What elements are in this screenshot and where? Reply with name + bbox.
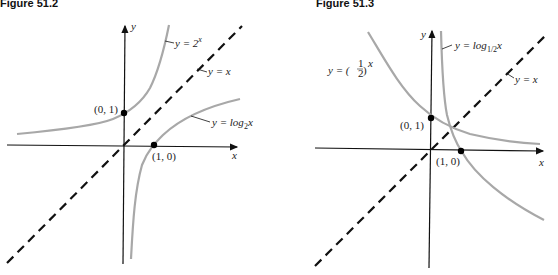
x-axis-label: x xyxy=(231,149,237,161)
y-axis-label: y xyxy=(420,28,426,40)
point-0-1-label: (0, 1) xyxy=(400,119,424,132)
point-0-1-label: (0, 1) xyxy=(94,103,118,116)
identity-label: y = x xyxy=(207,65,231,77)
half-exp-close: ) xyxy=(363,64,367,77)
point-1-0-label: (1, 0) xyxy=(152,150,176,163)
figure-51-3: y x y = ( 1 2 ) x y = log1/2x y = x (0, … xyxy=(315,28,548,268)
log-half-label: y = log1/2x xyxy=(454,39,502,54)
figure-51-2: y x y = 2x y = x y = log2x (0, 1) (1, 0) xyxy=(7,20,253,264)
x-axis xyxy=(7,145,237,147)
half-exp-curve xyxy=(368,32,540,144)
point-0-1 xyxy=(121,110,127,116)
x-axis-label: x xyxy=(538,156,544,168)
exp2-curve xyxy=(17,25,169,134)
point-1-0-label: (1, 0) xyxy=(436,155,460,168)
exp2-label: y = 2x xyxy=(174,35,202,49)
point-0-1 xyxy=(428,115,434,121)
y-axis-label: y xyxy=(130,20,136,32)
half-exp-label: y = ( xyxy=(327,64,351,77)
point-1-0 xyxy=(458,148,464,154)
half-exp-sup: x xyxy=(367,57,373,69)
x-axis xyxy=(315,148,543,151)
figures-canvas: y x y = 2x y = x y = log2x (0, 1) (1, 0)… xyxy=(0,0,558,275)
identity-label: y = x xyxy=(514,73,538,85)
point-1-0 xyxy=(151,142,157,148)
log2-label: y = log2x xyxy=(211,116,253,131)
